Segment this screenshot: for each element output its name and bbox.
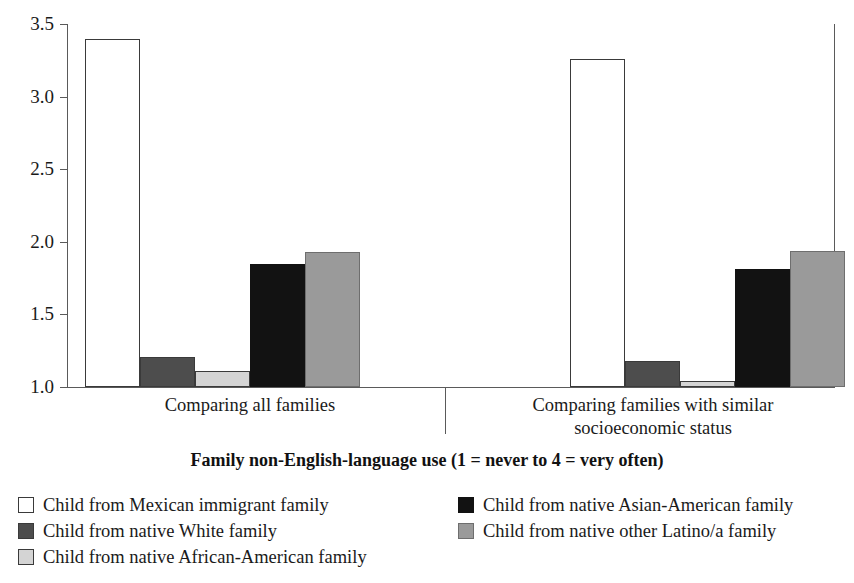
legend-swatch-icon (458, 497, 474, 513)
y-tick-mark (60, 242, 67, 243)
y-tick-mark (60, 387, 67, 388)
bar (735, 269, 790, 387)
group-label-2-line2: socioeconomic status (478, 417, 828, 440)
legend-item-label: Child from native African-American famil… (43, 547, 367, 567)
chart-legend: Child from Mexican immigrant familyChild… (0, 492, 854, 577)
legend-item: Child from Mexican immigrant family (18, 492, 367, 518)
bar (195, 371, 250, 387)
bar (140, 357, 195, 387)
bar (305, 252, 360, 387)
y-tick-label: 1.0 (8, 377, 54, 396)
legend-column-right: Child from native Asian-American familyC… (458, 492, 793, 544)
legend-swatch-icon (458, 523, 474, 539)
y-tick-label: 2.0 (8, 232, 54, 251)
group-label-2: Comparing families with similar socioeco… (478, 394, 828, 440)
group-label-2-line1: Comparing families with similar (478, 394, 828, 417)
group-label-1-line1: Comparing all families (90, 394, 410, 417)
bar (250, 264, 305, 387)
group-label-1: Comparing all families (90, 394, 410, 417)
y-tick-mark (60, 169, 67, 170)
x-axis-line (67, 387, 835, 388)
legend-item-label: Child from native Asian-American family (483, 495, 793, 515)
legend-swatch-icon (18, 497, 34, 513)
legend-item: Child from native White family (18, 518, 367, 544)
bar (625, 361, 680, 387)
legend-item-label: Child from native other Latino/a family (483, 521, 776, 541)
bar-chart: 1.01.52.02.53.03.5 Comparing all familie… (0, 0, 854, 583)
y-tick-label: 3.0 (8, 87, 54, 106)
y-tick-mark (60, 24, 67, 25)
y-tick-label: 1.5 (8, 304, 54, 323)
bar (680, 381, 735, 387)
plot-area (67, 24, 835, 387)
legend-item: Child from native African-American famil… (18, 544, 367, 570)
legend-item: Child from native Asian-American family (458, 492, 793, 518)
legend-item-label: Child from Mexican immigrant family (43, 495, 329, 515)
legend-item: Child from native other Latino/a family (458, 518, 793, 544)
y-tick-mark (60, 314, 67, 315)
legend-swatch-icon (18, 549, 34, 565)
legend-item-label: Child from native White family (43, 521, 277, 541)
bar (570, 59, 625, 387)
y-tick-mark (60, 97, 67, 98)
bar (790, 251, 845, 387)
y-tick-label: 2.5 (8, 159, 54, 178)
bar (85, 39, 140, 387)
group-divider (445, 388, 446, 434)
legend-column-left: Child from Mexican immigrant familyChild… (18, 492, 367, 570)
chart-caption: Family non-English-language use (1 = nev… (0, 450, 854, 471)
legend-swatch-icon (18, 523, 34, 539)
y-tick-label: 3.5 (8, 14, 54, 33)
